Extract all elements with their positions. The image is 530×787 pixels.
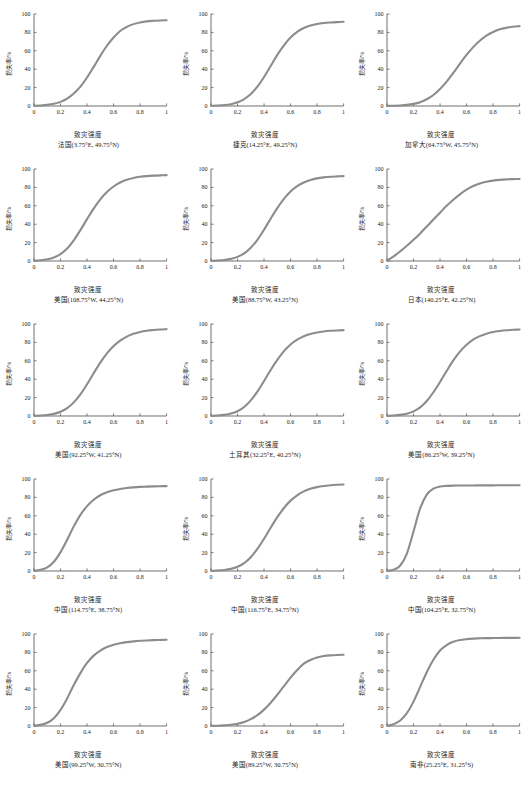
y-tick-label: 40 <box>201 686 207 692</box>
plot-svg: 02040608010000.20.40.60.81 <box>177 159 354 287</box>
x-axis-label: 致灾强度 <box>177 440 354 449</box>
x-tick-label: 0.6 <box>286 109 293 115</box>
y-tick-label: 20 <box>378 240 384 246</box>
axis-lines <box>387 14 520 106</box>
y-axis-label: 损失率/% <box>6 34 13 94</box>
x-axis-label: 致灾强度 <box>0 440 177 449</box>
plot-svg: 02040608010000.20.40.60.81 <box>353 624 530 752</box>
y-tick-label: 40 <box>201 66 207 72</box>
y-tick-label: 100 <box>375 321 384 327</box>
x-tick-label: 1 <box>342 574 345 580</box>
x-axis-label: 致灾强度 <box>0 130 177 139</box>
x-axis-label: 致灾强度 <box>177 595 354 604</box>
y-tick-label: 0 <box>381 723 384 729</box>
y-tick-label: 0 <box>204 413 207 419</box>
x-tick-label: 1 <box>342 264 345 270</box>
x-tick-label: 0.8 <box>490 729 497 735</box>
plot-area: 02040608010000.20.40.60.81 <box>177 4 354 132</box>
plot-area: 02040608010000.20.40.60.81 <box>353 469 530 597</box>
y-tick-label: 0 <box>27 568 30 574</box>
y-tick-label: 0 <box>381 568 384 574</box>
x-tick-label: 0.2 <box>233 729 240 735</box>
y-tick-label: 80 <box>378 650 384 656</box>
y-axis-label: 损失率/% <box>359 34 366 94</box>
x-tick-label: 1 <box>165 109 168 115</box>
x-tick-label: 0.6 <box>286 574 293 580</box>
y-axis-label: 损失率/% <box>6 189 13 249</box>
x-tick-label: 0 <box>386 109 389 115</box>
y-tick-label: 20 <box>25 395 31 401</box>
x-tick-label: 0.2 <box>57 419 64 425</box>
plot-area: 02040608010000.20.40.60.81 <box>0 4 177 132</box>
plot-area: 02040608010000.20.40.60.81 <box>177 159 354 287</box>
subplot-panel: 02040608010000.20.40.60.81损失率/%致灾强度美国(89… <box>177 620 354 775</box>
y-axis-label: 损失率/% <box>183 344 190 404</box>
y-tick-label: 60 <box>201 668 207 674</box>
x-tick-label: 0.2 <box>233 574 240 580</box>
subplot-panel: 02040608010000.20.40.60.81损失率/%致灾强度土耳其(3… <box>177 310 354 465</box>
axis-lines <box>211 324 344 416</box>
x-tick-label: 0.2 <box>57 574 64 580</box>
y-tick-label: 60 <box>378 513 384 519</box>
y-tick-label: 80 <box>378 340 384 346</box>
subplot-panel: 02040608010000.20.40.60.81损失率/%致灾强度美国(99… <box>0 620 177 775</box>
x-tick-label: 0.4 <box>260 264 267 270</box>
y-tick-label: 60 <box>25 48 31 54</box>
x-tick-label: 0.6 <box>286 264 293 270</box>
x-tick-label: 0.8 <box>490 109 497 115</box>
plot-svg: 02040608010000.20.40.60.81 <box>353 159 530 287</box>
subplot-caption: 美国(89.25°W, 30.75°N) <box>177 760 354 769</box>
y-axis-label: 损失率/% <box>6 654 13 714</box>
x-tick-label: 0.2 <box>57 264 64 270</box>
x-tick-label: 0.6 <box>463 729 470 735</box>
data-curve <box>387 330 520 416</box>
y-tick-label: 40 <box>201 376 207 382</box>
x-tick-label: 0 <box>386 264 389 270</box>
x-tick-label: 0 <box>209 109 212 115</box>
y-tick-label: 20 <box>201 395 207 401</box>
subplot-caption: 土耳其(32.25°E, 40.25°N) <box>177 450 354 459</box>
subplot-panel: 02040608010000.20.40.60.81损失率/%致灾强度中国(11… <box>0 465 177 620</box>
x-tick-label: 0.8 <box>136 419 143 425</box>
y-tick-label: 40 <box>378 66 384 72</box>
axis-lines <box>34 479 167 571</box>
y-tick-label: 0 <box>204 723 207 729</box>
plot-svg: 02040608010000.20.40.60.81 <box>353 4 530 132</box>
x-tick-label: 0.2 <box>410 109 417 115</box>
x-tick-label: 0.6 <box>110 264 117 270</box>
subplot-panel: 02040608010000.20.40.60.81损失率/%致灾强度加拿大(6… <box>353 0 530 155</box>
subplot-caption: 美国(108.75°W, 44.25°N) <box>0 295 177 304</box>
x-axis-label: 致灾强度 <box>353 595 530 604</box>
x-tick-label: 0.6 <box>286 729 293 735</box>
y-tick-label: 0 <box>204 103 207 109</box>
y-tick-label: 100 <box>198 476 207 482</box>
data-curve <box>387 179 520 261</box>
y-tick-label: 0 <box>381 103 384 109</box>
subplot-caption: 捷克(14.25°E, 49.25°N) <box>177 140 354 149</box>
x-tick-label: 1 <box>518 109 521 115</box>
y-tick-label: 60 <box>201 358 207 364</box>
x-tick-label: 0.4 <box>436 419 443 425</box>
y-axis-label: 损失率/% <box>359 654 366 714</box>
plot-svg: 02040608010000.20.40.60.81 <box>0 159 177 287</box>
y-tick-label: 100 <box>375 631 384 637</box>
y-tick-label: 0 <box>204 568 207 574</box>
x-tick-label: 0 <box>386 729 389 735</box>
axis-lines <box>211 14 344 106</box>
subplot-panel: 02040608010000.20.40.60.81损失率/%致灾强度中国(10… <box>353 465 530 620</box>
y-axis-label: 损失率/% <box>183 189 190 249</box>
y-tick-label: 40 <box>25 531 31 537</box>
plot-svg: 02040608010000.20.40.60.81 <box>177 314 354 442</box>
subplot-caption: 中国(114.75°E, 38.75°N) <box>0 605 177 614</box>
y-tick-label: 80 <box>201 650 207 656</box>
x-tick-label: 0.8 <box>490 419 497 425</box>
plot-area: 02040608010000.20.40.60.81 <box>0 469 177 597</box>
y-tick-label: 100 <box>22 321 31 327</box>
x-tick-label: 0.8 <box>313 419 320 425</box>
y-axis-label: 损失率/% <box>183 499 190 559</box>
y-axis-label: 损失率/% <box>6 499 13 559</box>
y-tick-label: 60 <box>201 48 207 54</box>
x-tick-label: 0.2 <box>410 729 417 735</box>
x-tick-label: 0 <box>386 574 389 580</box>
x-tick-label: 0.2 <box>410 574 417 580</box>
